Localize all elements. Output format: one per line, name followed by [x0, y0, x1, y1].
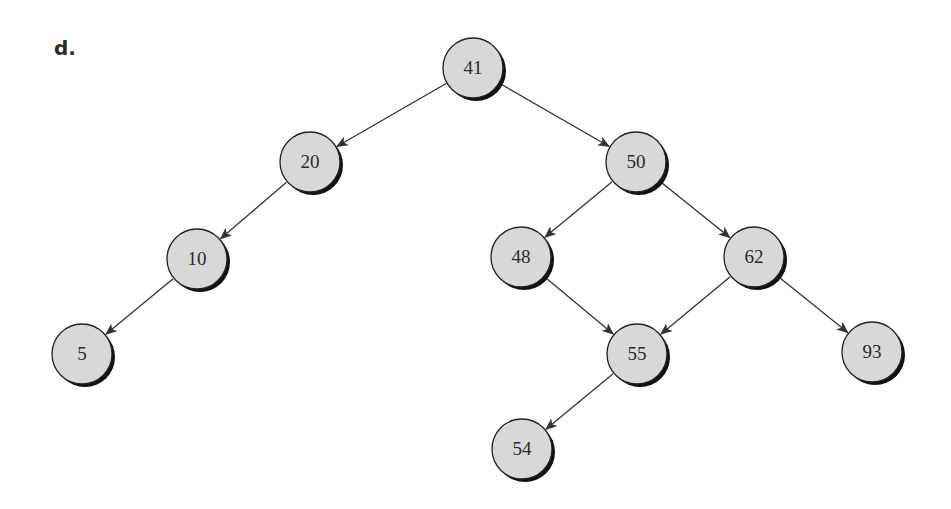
tree-node-55: 55	[607, 324, 670, 387]
tree-node-20: 20	[280, 132, 343, 195]
node-value: 48	[512, 246, 531, 267]
edge-arrow-50-to-62	[660, 181, 730, 237]
tree-node-5: 5	[52, 324, 115, 387]
edge-arrow-41-to-50	[500, 83, 609, 146]
edge-arrow-48-to-55	[545, 277, 613, 334]
edge-arrow-62-to-93	[778, 276, 848, 332]
edge-arrow-62-to-55	[661, 277, 730, 334]
node-value: 50	[627, 151, 646, 172]
tree-diagram: 4120501048625559354	[0, 0, 951, 509]
tree-node-54: 54	[492, 419, 555, 482]
node-value: 41	[464, 57, 483, 78]
tree-node-48: 48	[491, 227, 554, 290]
node-value: 93	[863, 341, 882, 362]
node-value: 62	[745, 246, 764, 267]
node-value: 10	[188, 248, 207, 269]
node-value: 54	[513, 438, 533, 459]
tree-node-93: 93	[842, 322, 905, 385]
node-value: 55	[628, 343, 647, 364]
edge-arrow-10-to-5	[106, 279, 173, 335]
tree-node-50: 50	[606, 132, 669, 195]
tree-node-62: 62	[724, 227, 787, 290]
node-value: 20	[301, 151, 320, 172]
edge-arrow-20-to-10	[221, 182, 287, 239]
node-value: 5	[77, 343, 87, 364]
tree-node-41: 41	[443, 38, 506, 101]
edge-arrow-50-to-48	[545, 182, 612, 238]
edge-arrow-41-to-20	[337, 83, 446, 146]
nodes-layer: 4120501048625559354	[52, 38, 905, 482]
edge-arrow-55-to-54	[546, 374, 613, 430]
